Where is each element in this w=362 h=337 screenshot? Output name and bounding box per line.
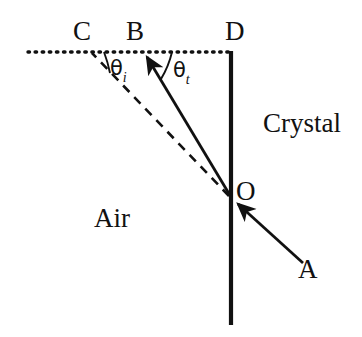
- incident-ray: [238, 204, 303, 263]
- point-label-o: O: [236, 178, 256, 205]
- point-label-d: D: [225, 18, 245, 45]
- theta-glyph-t: θ: [173, 58, 186, 82]
- angle-arc-theta-t: [161, 52, 172, 79]
- point-label-a: A: [298, 256, 318, 283]
- theta-glyph-i: θ: [110, 56, 123, 80]
- angle-label-theta-t: θt: [173, 60, 190, 85]
- region-label-air: Air: [94, 205, 130, 232]
- point-label-c: C: [73, 18, 91, 45]
- angle-label-theta-i: θi: [110, 58, 127, 83]
- region-label-crystal: Crystal: [263, 110, 341, 137]
- diagram-canvas: [0, 0, 362, 337]
- refraction-diagram: C B D O A Crystal Air θi θt: [0, 0, 362, 337]
- theta-subscript-i: i: [123, 70, 127, 85]
- point-label-b: B: [126, 18, 144, 45]
- theta-subscript-t: t: [186, 72, 190, 87]
